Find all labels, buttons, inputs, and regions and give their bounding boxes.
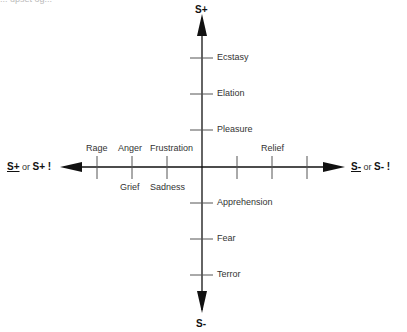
label-frustration: Frustration: [150, 143, 193, 153]
label-grief: Grief: [120, 182, 140, 192]
label-anger: Anger: [118, 143, 142, 153]
axis-bottom-label: S-: [196, 318, 206, 329]
label-elation: Elation: [217, 88, 245, 98]
label-pleasure: Pleasure: [217, 124, 253, 134]
axis-right-label: S- or S- !: [351, 161, 390, 172]
label-apprehension: Apprehension: [217, 197, 273, 207]
axis-left-label: S+ or S+ !: [7, 161, 51, 172]
label-fear: Fear: [217, 233, 236, 243]
label-ecstasy: Ecstasy: [217, 52, 249, 62]
label-terror: Terror: [217, 269, 241, 279]
label-sadness: Sadness: [150, 182, 185, 192]
axis-top-label: S+: [195, 4, 208, 15]
emotion-axes: [0, 0, 407, 332]
label-rage: Rage: [86, 143, 108, 153]
label-relief: Relief: [261, 143, 284, 153]
